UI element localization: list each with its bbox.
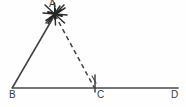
vertex-label-b: B bbox=[9, 90, 16, 100]
geometry-diagram: A B C D bbox=[0, 0, 186, 107]
segment-side-ba bbox=[13, 15, 56, 88]
geometry-canvas bbox=[0, 0, 186, 107]
vertex-label-d: D bbox=[171, 90, 178, 100]
segment-altitude-ac bbox=[55, 15, 95, 88]
vertex-label-c: C bbox=[97, 90, 104, 100]
vertex-label-a: A bbox=[49, 0, 56, 9]
